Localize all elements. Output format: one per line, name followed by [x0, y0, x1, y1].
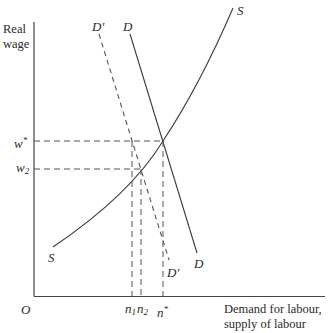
y-axis-title-line2: wage	[3, 37, 29, 52]
x-axis-title-line2: supply of labour	[224, 317, 322, 332]
y-axis-title: Real wage	[3, 22, 29, 52]
label-s-bottom: S	[48, 251, 55, 265]
labour-market-diagram: Real wage D′ D S S D D′ w* w2 n1 n2 n* O…	[0, 0, 332, 333]
tick-n-star: n*	[157, 302, 168, 320]
tick-w2: w2	[16, 161, 29, 178]
label-d-top: D	[123, 20, 132, 34]
y-axis-title-line1: Real	[3, 22, 29, 37]
label-d-prime-top: D′	[92, 20, 104, 34]
supply-curve-s	[53, 8, 233, 247]
x-axis-title-line1: Demand for labour,	[224, 302, 322, 317]
tick-n2: n2	[137, 302, 148, 319]
label-d-bottom: D	[194, 257, 203, 271]
demand-curve-d-prime	[99, 34, 169, 260]
tick-w-star: w*	[14, 133, 27, 151]
x-axis-title: Demand for labour, supply of labour	[224, 302, 322, 332]
origin-label: O	[21, 303, 30, 317]
label-d-prime-bottom: D′	[167, 266, 179, 280]
tick-n1: n1	[125, 302, 136, 319]
diagram-canvas	[0, 0, 332, 333]
label-s-top: S	[237, 4, 244, 18]
